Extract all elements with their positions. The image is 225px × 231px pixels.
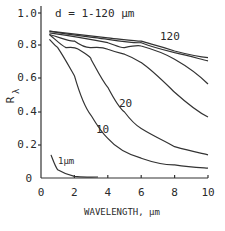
y-tick-0.6: 0.6	[17, 71, 37, 84]
x-tick-8: 8	[171, 186, 178, 199]
chart-title: d = 1-120 µm	[55, 7, 135, 20]
y-tick-0: 0	[25, 172, 32, 185]
y-tick-1.0: 1.0	[17, 7, 37, 20]
curve-20	[49, 35, 208, 155]
x-axis-label: WAVELENGTH, µm	[84, 207, 160, 217]
label-1um: 1µm	[58, 156, 74, 166]
y-tick-0.2: 0.2	[17, 138, 37, 151]
x-tick-6: 6	[138, 186, 145, 199]
x-tick-0: 0	[38, 186, 45, 199]
x-tick-2: 2	[71, 186, 78, 199]
y-axis-label: R λ	[4, 88, 21, 103]
x-tick-labels: 0 2 4 6 8 10	[38, 186, 215, 199]
x-tick-10: 10	[201, 186, 214, 199]
svg-text:λ: λ	[11, 88, 21, 94]
label-120: 120	[160, 30, 180, 43]
y-tick-labels: 1.0 0.8 0.6 0.4 0.2 0	[17, 7, 37, 185]
y-tick-0.8: 0.8	[17, 38, 37, 51]
label-20: 20	[119, 97, 132, 110]
y-tick-0.4: 0.4	[17, 105, 37, 118]
x-tick-4: 4	[104, 186, 111, 199]
label-10: 10	[96, 123, 109, 136]
reflectance-chart: 1.0 0.8 0.6 0.4 0.2 0 0 2 4 6 8 10 WAVEL…	[0, 0, 225, 231]
svg-text:R: R	[4, 96, 17, 103]
